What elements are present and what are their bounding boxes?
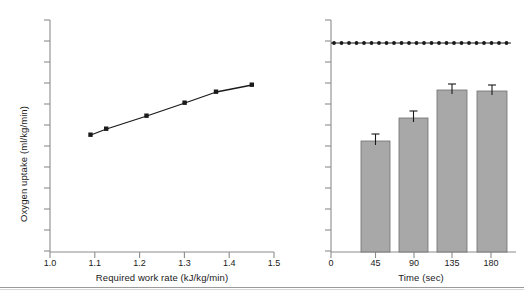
bar-90	[399, 118, 428, 252]
left-x-axis-label: Required work rate (kJ/kg/min)	[57, 272, 267, 283]
footer-divider	[0, 287, 524, 288]
bar-180	[477, 91, 507, 252]
left-xtick-label-0: 1.0	[38, 258, 62, 268]
right-xtick-label-45: 45	[364, 258, 388, 268]
right-xtick-label-180: 180	[479, 258, 503, 268]
left-xtick-label-5: 1.5	[262, 258, 286, 268]
left-series-line	[91, 85, 252, 135]
right-xtick-label-90: 90	[402, 258, 426, 268]
left-y-ticks	[44, 20, 50, 251]
left-series-markers	[88, 83, 254, 137]
bar-135	[437, 90, 467, 252]
right-y-ticks	[325, 20, 331, 251]
left-xtick-label-2: 1.2	[128, 258, 152, 268]
right-xtick-label-0: 0	[319, 258, 343, 268]
bar-group	[361, 90, 507, 252]
footer-divider-shadow	[0, 289, 524, 290]
data-point-marker	[88, 133, 92, 137]
left-xtick-label-3: 1.3	[172, 258, 196, 268]
figure-container: 1.0 1.1 1.2 1.3 1.4 1.5 Required work ra…	[0, 0, 524, 298]
data-point-marker	[214, 90, 218, 94]
data-point-marker	[250, 83, 254, 87]
left-xtick-label-4: 1.4	[217, 258, 241, 268]
data-point-marker	[144, 114, 148, 118]
data-point-marker	[104, 127, 108, 131]
left-panel	[44, 20, 274, 258]
left-xtick-label-1: 1.1	[83, 258, 107, 268]
right-xtick-label-135: 135	[440, 258, 464, 268]
data-point-marker	[182, 101, 186, 105]
max-oxygen-uptake-reference-line	[331, 41, 511, 45]
figure-svg	[0, 0, 524, 298]
right-x-axis-label: Time (sec)	[356, 272, 486, 283]
bar-45	[361, 141, 390, 252]
left-y-axis-label: Oxygen uptake (ml/kg/min)	[18, 106, 29, 222]
right-panel	[325, 20, 516, 258]
